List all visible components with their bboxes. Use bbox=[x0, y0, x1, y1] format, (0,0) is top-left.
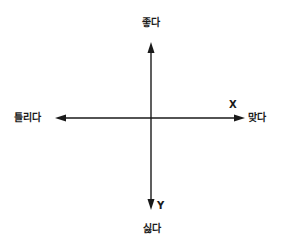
x-axis-letter: X bbox=[229, 99, 237, 111]
left-label: 틀리다 bbox=[14, 112, 41, 124]
right-label: 맞다 bbox=[248, 112, 266, 124]
arrow-right-icon bbox=[234, 115, 245, 122]
y-axis-letter: Y bbox=[157, 200, 164, 212]
top-label: 좋다 bbox=[142, 17, 160, 29]
arrow-up-icon bbox=[148, 42, 155, 53]
arrow-down-icon bbox=[148, 199, 155, 210]
bottom-label: 싫다 bbox=[143, 223, 161, 235]
axes-diagram bbox=[0, 0, 284, 249]
arrow-left-icon bbox=[55, 115, 66, 122]
